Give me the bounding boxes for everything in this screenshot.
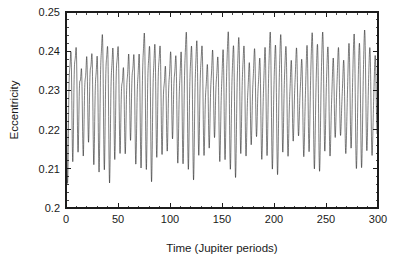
x-tick-label: 300: [369, 213, 387, 225]
y-tick-label: 0.23: [39, 84, 60, 96]
y-axis-title: Eccentricity: [8, 80, 20, 139]
x-tick-label: 0: [63, 213, 69, 225]
x-tick-label: 250: [317, 213, 335, 225]
x-tick-label: 150: [213, 213, 231, 225]
x-tick-label: 50: [112, 213, 124, 225]
y-tick-label: 0.25: [39, 6, 60, 18]
figure-container: 050100150200250300 0.20.210.220.230.240.…: [0, 0, 397, 266]
y-tick-label: 0.21: [39, 163, 60, 175]
x-axis-title: Time (Jupiter periods): [166, 242, 278, 254]
x-tick-label: 100: [161, 213, 179, 225]
y-tick-label: 0.22: [39, 124, 60, 136]
y-tick-label: 0.2: [45, 202, 60, 214]
y-tick-label: 0.24: [39, 45, 60, 57]
x-tick-label: 200: [265, 213, 283, 225]
eccentricity-time-series-chart: 050100150200250300 0.20.210.220.230.240.…: [0, 0, 397, 266]
